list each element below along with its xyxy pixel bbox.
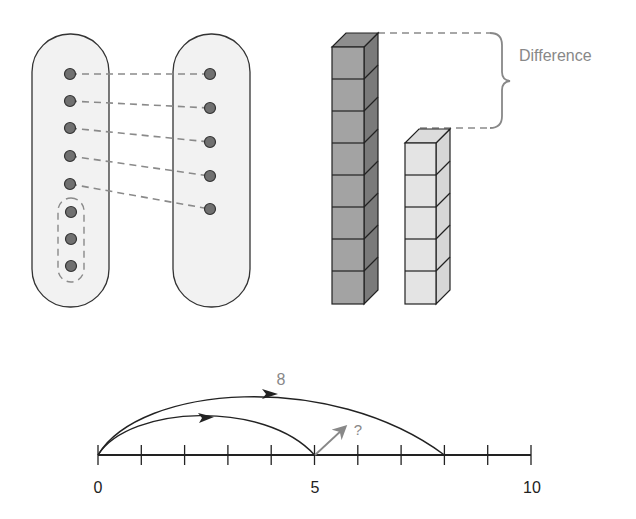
tall-tower — [332, 33, 378, 304]
matching-model — [32, 34, 250, 307]
tick-label-0: 0 — [94, 479, 103, 496]
jump-arc-0-to-5 — [98, 416, 315, 455]
unknown-arrow — [315, 429, 343, 455]
tick-label-10: 10 — [523, 479, 541, 496]
subtraction-models-diagram: Difference — [0, 0, 636, 519]
short-tower — [405, 129, 450, 304]
number-line-model: 8 ? 0 5 10 — [94, 371, 541, 496]
difference-brace — [490, 33, 510, 128]
jump-arc-0-to-5-arrowhead — [198, 413, 214, 423]
cube-towers-model: Difference — [332, 33, 592, 304]
tick-label-5: 5 — [311, 479, 320, 496]
big-jump-label: 8 — [277, 371, 286, 388]
difference-label: Difference — [519, 47, 592, 64]
unknown-label: ? — [354, 421, 362, 438]
difference-guides — [378, 33, 490, 128]
